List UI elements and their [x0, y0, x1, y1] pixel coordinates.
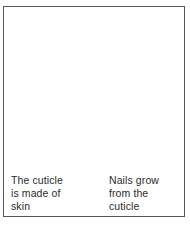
cuticle-label-line-3: skin	[11, 200, 63, 213]
cuticle-label: The cuticle is made of skin	[11, 174, 63, 213]
cuticle-label-line-1: The cuticle	[11, 174, 63, 187]
nail-anatomy-figure: The cuticle is made of skin Nails grow f…	[0, 0, 190, 225]
nail-growth-label: Nails grow from the cuticle	[109, 174, 159, 213]
nail-growth-label-line-1: Nails grow	[109, 174, 159, 187]
cuticle-label-line-2: is made of	[11, 187, 63, 200]
nail-growth-label-line-2: from the	[109, 187, 159, 200]
nail-growth-label-line-3: cuticle	[109, 200, 159, 213]
